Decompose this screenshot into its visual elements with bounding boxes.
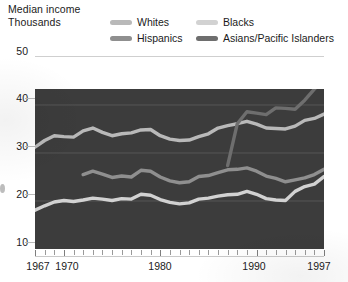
x-tick-1969 <box>54 250 55 255</box>
x-tick-1994 <box>295 250 296 255</box>
x-tick-1982 <box>180 250 181 255</box>
x-tick-1976 <box>122 250 123 255</box>
legend-label-hispanics: Hispanics <box>137 32 183 44</box>
plot-area <box>35 89 324 249</box>
y-tick-mark-10 <box>25 242 35 243</box>
legend-label-whites: Whites <box>137 16 169 28</box>
x-tick-1968 <box>45 250 46 255</box>
x-axis-line <box>35 256 324 257</box>
x-tick-1984 <box>199 250 200 255</box>
x-tick-1978 <box>141 250 142 255</box>
y-tick-label-50: 50 <box>6 45 28 57</box>
legend-item-blacks: Blacks <box>196 16 346 28</box>
series-line-whites <box>35 114 324 147</box>
x-tick-1981 <box>170 250 171 255</box>
x-tick-1989 <box>247 250 248 255</box>
plot-series-group <box>35 89 324 210</box>
page-title: Median income <box>8 3 118 16</box>
legend-swatch-icon-whites <box>110 20 132 25</box>
legend-item-hispanics: Hispanics <box>110 32 196 44</box>
legend-swatch-icon-hispanics <box>110 36 132 41</box>
legend-item-asians-pacific-islanders: Asians/Pacific Islanders <box>196 32 346 44</box>
x-tick-1990 <box>257 250 258 256</box>
x-tick-1974 <box>102 250 103 255</box>
chart-legend: Whites Blacks Hispanics Asians/Pacific I… <box>110 14 348 46</box>
y-tick-mark-40 <box>25 98 35 99</box>
x-tick-1987 <box>228 250 229 255</box>
x-tick-1973 <box>93 250 94 255</box>
x-tick-1970 <box>64 250 65 256</box>
y-tick-mark-30 <box>25 146 35 147</box>
x-tick-label-1970: 1970 <box>50 260 84 272</box>
legend-label-asians: Asians/Pacific Islanders <box>223 32 334 44</box>
x-tick-label-1990: 1990 <box>237 260 271 272</box>
x-tick-1971 <box>74 250 75 255</box>
legend-row-2: Hispanics Asians/Pacific Islanders <box>110 30 348 46</box>
x-tick-marks <box>35 250 324 256</box>
x-tick-1983 <box>189 250 190 255</box>
x-tick-1991 <box>266 250 267 255</box>
x-tick-1977 <box>131 250 132 255</box>
plot-gridlines <box>35 105 324 201</box>
legend-label-blacks: Blacks <box>223 16 254 28</box>
page-margin-mark <box>0 184 5 193</box>
chart-figure: Median income Thousands Whites Blacks Hi… <box>0 0 348 282</box>
legend-item-whites: Whites <box>110 16 196 28</box>
x-tick-label-1997: 1997 <box>302 260 336 272</box>
x-tick-1967 <box>35 250 36 256</box>
x-tick-1988 <box>237 250 238 255</box>
plot-lines-svg <box>35 89 324 249</box>
legend-row-1: Whites Blacks <box>110 14 348 30</box>
x-tick-1972 <box>83 250 84 255</box>
x-tick-1996 <box>314 250 315 255</box>
y-tick-mark-20 <box>25 194 35 195</box>
x-tick-1985 <box>208 250 209 255</box>
legend-swatch-icon-blacks <box>196 20 218 25</box>
x-tick-label-1980: 1980 <box>143 260 177 272</box>
legend-swatch-icon-asians <box>196 36 218 41</box>
x-tick-1986 <box>218 250 219 255</box>
x-tick-1979 <box>151 250 152 255</box>
x-tick-1992 <box>276 250 277 255</box>
x-tick-1975 <box>112 250 113 255</box>
gridline-50 <box>35 56 324 57</box>
chart-title-block: Median income Thousands <box>8 3 118 29</box>
series-line-hispanics <box>83 168 324 183</box>
chart-subtitle: Thousands <box>8 16 118 29</box>
x-tick-1997 <box>324 250 325 256</box>
x-tick-1995 <box>305 250 306 255</box>
x-tick-1980 <box>160 250 161 256</box>
x-tick-1993 <box>286 250 287 255</box>
